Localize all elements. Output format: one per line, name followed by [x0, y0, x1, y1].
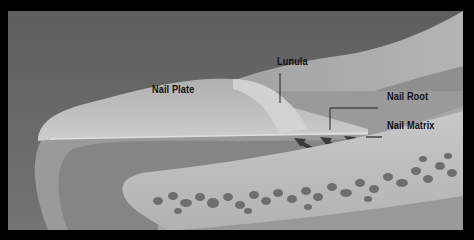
label-nail-root: Nail Root: [387, 91, 428, 102]
label-nail-matrix: Nail Matrix: [387, 120, 435, 131]
label-lunula: Lunula: [277, 56, 308, 67]
label-nail-plate: Nail Plate: [152, 84, 194, 95]
image-frame: Nail Plate Lunula Nail Root Nail Matrix: [0, 0, 474, 240]
diagram-canvas: Nail Plate Lunula Nail Root Nail Matrix: [8, 11, 463, 230]
